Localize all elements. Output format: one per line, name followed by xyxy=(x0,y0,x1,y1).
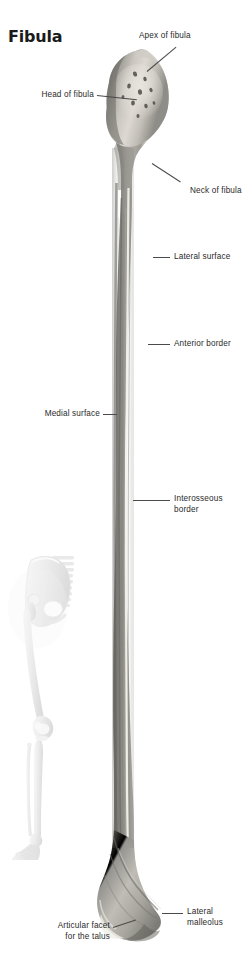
anatomy-plate: Fibula xyxy=(0,0,245,975)
label-medial-surface: Medial surface xyxy=(32,409,100,420)
label-lateral-surface: Lateral surface xyxy=(174,252,230,263)
label-lateral-malleolus: Lateral malleolus xyxy=(187,907,223,928)
leader-line-interosseous-border xyxy=(133,500,170,501)
leader-line-lateral-surface xyxy=(153,257,170,258)
label-anterior-border: Anterior border xyxy=(174,339,231,350)
page-title: Fibula xyxy=(8,27,62,46)
leader-line-medial-surface xyxy=(103,414,117,415)
label-apex-of-fibula: Apex of fibula xyxy=(139,31,191,42)
label-neck-of-fibula: Neck of fibula xyxy=(190,186,242,197)
skeleton-orientation-figure xyxy=(8,548,92,860)
label-articular-facet-for-the-talus: Articular facet for the talus xyxy=(39,921,110,942)
label-head-of-fibula: Head of fibula xyxy=(26,90,94,101)
leader-line-anterior-border xyxy=(148,344,170,345)
label-interosseous-border: Interosseous border xyxy=(174,494,223,515)
leader-line-lateral-malleolus xyxy=(162,913,183,914)
